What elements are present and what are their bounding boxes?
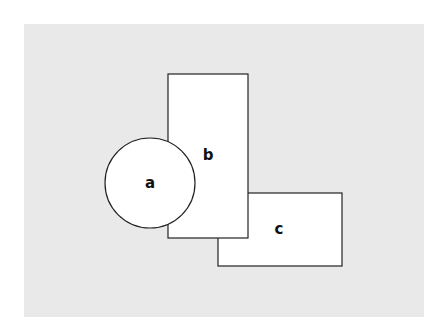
label-b: b	[203, 146, 214, 164]
label-a: a	[145, 174, 155, 192]
overlapping-shapes-diagram: a b c	[0, 0, 443, 332]
label-c: c	[275, 220, 284, 238]
